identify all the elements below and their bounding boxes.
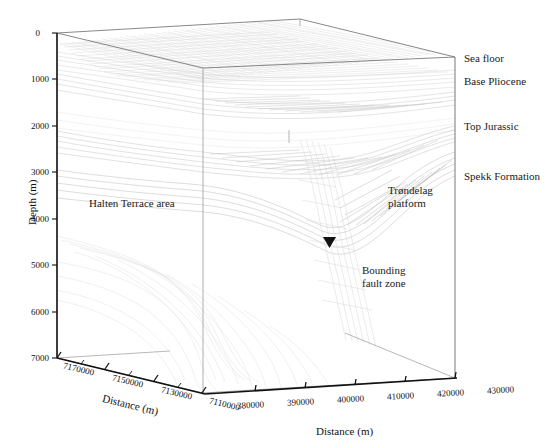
depth-tick-3000: 3000 <box>31 167 49 177</box>
seismic-3d-figure: 0 1000 2000 3000 4000 5000 6000 7000 Dep… <box>0 0 556 448</box>
depth-tick-0: 0 <box>36 28 41 38</box>
distance-right-tick-430000: 430000 <box>487 384 515 396</box>
plot-canvas <box>0 0 556 448</box>
annotation-halten-terrace: Halten Terrace area <box>89 197 175 210</box>
horizon-label-top-jurassic: Top Jurassic <box>464 120 519 133</box>
distance-right-tick-380000: 380000 <box>237 399 265 411</box>
depth-tick-5000: 5000 <box>31 260 49 270</box>
distance-right-tick-420000: 420000 <box>437 387 465 399</box>
depth-tick-7000: 7000 <box>31 353 49 363</box>
distance-right-tick-390000: 390000 <box>287 396 315 408</box>
depth-axis <box>52 33 57 358</box>
bounding-fault-marker-icon <box>323 237 336 248</box>
horizon-label-sea-floor: Sea floor <box>464 52 504 65</box>
distance-right-axis-title: Distance (m) <box>316 425 373 437</box>
annotation-bounding-fault-zone: Bounding fault zone <box>362 264 406 290</box>
distance-right-tick-410000: 410000 <box>387 390 415 402</box>
depth-tick-1000: 1000 <box>31 74 49 84</box>
distance-right-tick-400000: 400000 <box>337 393 365 405</box>
depth-tick-2000: 2000 <box>31 121 49 131</box>
horizon-label-base-pliocene: Base Pliocene <box>464 75 526 88</box>
annotation-trondelag-line1: Trøndelag <box>388 184 433 197</box>
annotation-fault-line2: fault zone <box>362 277 406 290</box>
base-pliocene-surface <box>57 74 455 119</box>
bounding-fault-zone-fabric <box>296 140 376 347</box>
depth-tick-6000: 6000 <box>31 307 49 317</box>
depth-axis-title: Depth (m) <box>26 179 38 225</box>
annotation-trondelag-line2: platform <box>388 197 433 210</box>
shallow-horizon-bands <box>57 52 455 95</box>
horizon-label-spekk-formation: Spekk Formation <box>464 170 540 183</box>
annotation-fault-line1: Bounding <box>362 264 406 277</box>
annotation-trondelag-platform: Trøndelag platform <box>388 184 433 210</box>
mid-reflectors <box>57 112 455 148</box>
top-jurassic-surface <box>57 126 455 179</box>
deep-basin-surface <box>57 236 331 393</box>
